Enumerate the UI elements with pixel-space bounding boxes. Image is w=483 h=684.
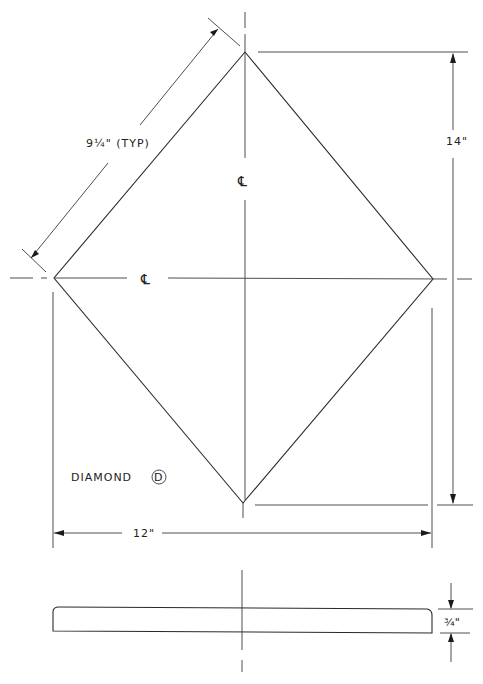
arrowhead-icon (450, 53, 456, 63)
part-title: DIAMOND (71, 471, 132, 484)
arrowhead-icon (31, 250, 39, 258)
arrowhead-icon (448, 633, 454, 642)
thickness-label: ¾" (444, 616, 460, 629)
side-view-board (53, 607, 432, 633)
arrowhead-icon (421, 530, 431, 536)
vertical-centerline (243, 12, 245, 518)
arrowhead-icon (54, 530, 64, 536)
vertical-centerline-symbol: ℄ (237, 173, 247, 189)
edge-length-label: 9¼" (TYP) (86, 137, 150, 150)
diamond-outline (54, 52, 433, 503)
arrowhead-icon (210, 29, 218, 36)
horizontal-centerline-symbol: ℄ (140, 271, 150, 287)
height-label: 14" (446, 135, 468, 148)
width-dimension (53, 292, 432, 548)
horizontal-centerline (10, 278, 472, 279)
part-badge-letter: D (154, 471, 162, 484)
arrowhead-icon (450, 494, 456, 504)
technical-drawing: ℄ ℄ 9¼" (TYP) 14" 12" DIAM (0, 0, 483, 684)
arrowhead-icon (448, 600, 454, 609)
width-label: 12" (133, 527, 155, 540)
